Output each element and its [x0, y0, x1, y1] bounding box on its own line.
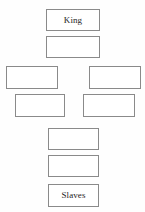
rank-2-box[interactable]	[46, 36, 100, 58]
king-box-label: King	[64, 16, 82, 25]
hierarchy-diagram: King Slaves	[0, 0, 145, 212]
rank-4-right-box[interactable]	[83, 94, 135, 117]
rank-3-right-box[interactable]	[89, 66, 141, 89]
rank-5-box[interactable]	[48, 128, 99, 150]
rank-6-box[interactable]	[48, 155, 99, 177]
slaves-box-label: Slaves	[61, 191, 85, 200]
rank-4-left-box[interactable]	[15, 94, 65, 117]
king-box[interactable]: King	[46, 9, 100, 31]
rank-3-left-box[interactable]	[6, 66, 58, 89]
slaves-box[interactable]: Slaves	[48, 184, 99, 207]
